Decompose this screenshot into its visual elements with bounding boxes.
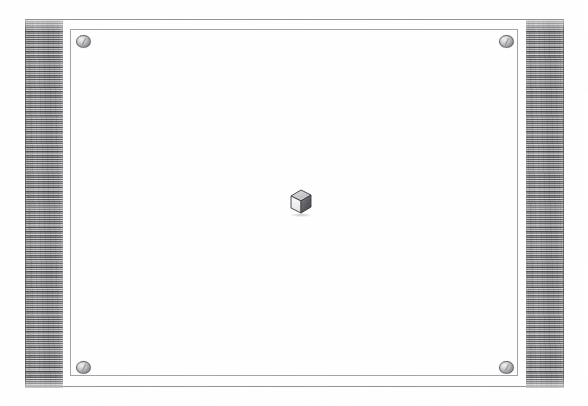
screw-icon-bottom-left [76,361,91,374]
sketch-canvas [0,0,588,406]
cube-icon [288,188,314,216]
band-fade-top [526,20,564,30]
band-fade-bottom [25,378,63,388]
cube-icon-svg [288,188,314,216]
cube-shadow [290,213,312,217]
screw-icon-bottom-right [499,361,514,374]
screw-icon-top-left [76,35,91,48]
screw-icon-top-right [499,35,514,48]
band-fade-top [25,20,63,30]
band-fade-bottom [526,378,564,388]
